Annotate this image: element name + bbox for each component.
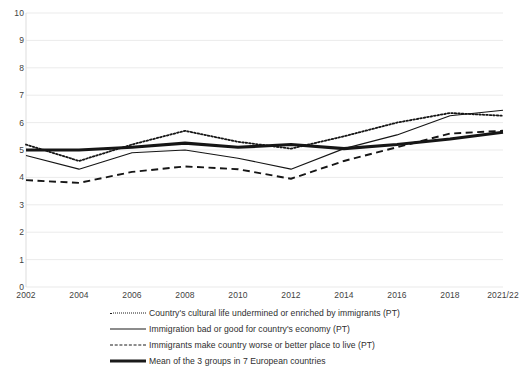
- y-axis-tick-label: 4: [19, 172, 24, 182]
- x-axis-tick-label: 2016: [387, 290, 406, 300]
- series-line-3: [26, 132, 503, 150]
- y-axis-tick-label: 10: [14, 8, 24, 18]
- solid-line-key: [110, 323, 146, 335]
- legend-item-mean-7-countries[interactable]: Mean of the 3 groups in 7 European count…: [110, 353, 326, 368]
- y-axis-tick-label: 7: [19, 90, 24, 100]
- y-axis-tick-label: 5: [19, 145, 24, 155]
- x-axis-tick-label: 2008: [175, 290, 194, 300]
- x-axis-tick-label: 2010: [228, 290, 247, 300]
- y-axis-tick-label: 9: [19, 35, 24, 45]
- series-line-2: [26, 131, 503, 183]
- dotted-line-key: [110, 307, 146, 319]
- y-axis-tick-label: 1: [19, 255, 24, 265]
- x-axis-tick-label: 2006: [122, 290, 141, 300]
- y-axis-tick-label: 8: [19, 63, 24, 73]
- y-axis-tick-label: 6: [19, 118, 24, 128]
- y-axis-tick-label: 3: [19, 200, 24, 210]
- legend-item-label: Immigration bad or good for country's ec…: [149, 324, 350, 334]
- plot-svg: [0, 0, 510, 300]
- series-lines: [26, 110, 503, 183]
- legend-item-label: Mean of the 3 groups in 7 European count…: [149, 356, 326, 366]
- x-axis-tick-label: 2018: [440, 290, 459, 300]
- x-axis-tick-label: 2004: [69, 290, 88, 300]
- legend-item-label: Immigrants make country worse or better …: [149, 340, 375, 350]
- x-axis-tick-label: 2012: [281, 290, 300, 300]
- legend-item-label: Country's cultural life undermined or en…: [149, 308, 400, 318]
- y-axis-tick-labels: 109876543210: [0, 0, 24, 300]
- legend: Country's cultural life undermined or en…: [0, 303, 510, 380]
- dashed-line-key: [110, 339, 146, 351]
- x-axis-tick-label: 2014: [334, 290, 353, 300]
- legend-item-place-to-live[interactable]: Immigrants make country worse or better …: [110, 337, 375, 352]
- x-axis-tick-label: 2002: [16, 290, 35, 300]
- legend-item-cultural-life[interactable]: Country's cultural life undermined or en…: [110, 305, 400, 320]
- y-axis-tick-label: 2: [19, 227, 24, 237]
- plot-area: 109876543210 200220042006200820102012201…: [0, 0, 510, 300]
- thick-line-key: [110, 355, 146, 367]
- series-line-0: [26, 113, 503, 161]
- x-axis-tick-label: 2021/22: [487, 290, 518, 300]
- legend-item-economy[interactable]: Immigration bad or good for country's ec…: [110, 321, 350, 336]
